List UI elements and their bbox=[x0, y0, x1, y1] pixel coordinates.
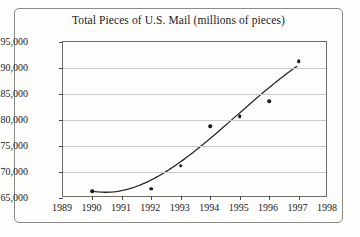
data-point bbox=[150, 187, 154, 191]
x-axis-label: 1990 bbox=[81, 202, 101, 213]
x-axis-tick bbox=[269, 196, 270, 200]
gridline bbox=[63, 94, 326, 95]
gridline bbox=[63, 146, 326, 147]
plot-area bbox=[62, 41, 327, 197]
x-axis-tick bbox=[122, 196, 123, 200]
x-axis-labels: 1989199019911992199319941995199619971998 bbox=[62, 202, 327, 216]
x-axis-label: 1991 bbox=[111, 202, 131, 213]
gridline bbox=[63, 172, 326, 173]
x-axis-tick bbox=[151, 196, 152, 200]
x-axis-tick bbox=[181, 196, 182, 200]
x-axis-label: 1992 bbox=[140, 202, 160, 213]
y-axis-tick bbox=[59, 198, 63, 199]
y-axis-tick bbox=[59, 172, 63, 173]
y-axis-tick bbox=[59, 42, 63, 43]
data-point bbox=[179, 164, 183, 168]
data-point bbox=[91, 189, 95, 193]
data-point bbox=[267, 99, 271, 103]
gridline bbox=[63, 120, 326, 121]
y-axis-tick bbox=[59, 120, 63, 121]
x-axis-tick bbox=[92, 196, 93, 200]
x-axis-tick bbox=[240, 196, 241, 200]
x-axis-label: 1994 bbox=[199, 202, 219, 213]
x-axis-label: 1997 bbox=[288, 202, 308, 213]
x-axis-label: 1989 bbox=[52, 202, 72, 213]
data-point bbox=[297, 59, 301, 63]
x-axis-label: 1998 bbox=[317, 202, 337, 213]
x-axis-label: 1993 bbox=[170, 202, 190, 213]
x-axis-tick bbox=[210, 196, 211, 200]
gridline bbox=[63, 68, 326, 69]
regression-path bbox=[92, 66, 297, 192]
x-axis-label: 1996 bbox=[258, 202, 278, 213]
y-axis-tick bbox=[59, 146, 63, 147]
data-point bbox=[208, 124, 212, 128]
x-axis-label: 1995 bbox=[229, 202, 249, 213]
y-axis-tick bbox=[59, 94, 63, 95]
data-point bbox=[238, 115, 242, 119]
chart-title: Total Pieces of U.S. Mail (millions of p… bbox=[14, 14, 343, 26]
x-axis-tick bbox=[299, 196, 300, 200]
y-axis-tick bbox=[59, 68, 63, 69]
